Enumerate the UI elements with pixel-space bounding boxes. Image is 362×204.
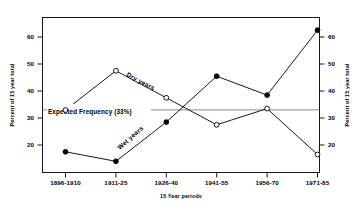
y-tick-label-right-4: 20 (328, 141, 335, 148)
dry-years-point-1 (114, 68, 119, 73)
x-category-label-0: 1896-1910 (50, 179, 81, 186)
wet-years-point-3 (214, 74, 219, 79)
x-axis-title: 15 Year periods (160, 193, 202, 199)
y-tick-label-right-1: 50 (328, 60, 335, 67)
wet-years-label: Wet years (116, 124, 145, 151)
wet-years-point-4 (265, 93, 270, 98)
y-tick-label-left-0: 60 (27, 33, 34, 40)
right-axis-ticks (320, 37, 325, 145)
dry-years-point-5 (315, 152, 320, 157)
x-category-label-2: 1926-40 (155, 179, 179, 186)
y-tick-label-left-4: 20 (27, 141, 34, 148)
dry-years-point-2 (164, 95, 169, 100)
x-category-label-1: 1911-25 (104, 179, 128, 186)
x-category-label-3: 1941-55 (205, 179, 229, 186)
wet-years-point-1 (114, 159, 119, 164)
y-tick-label-right-3: 30 (328, 114, 335, 121)
y-tick-label-left-2: 40 (27, 87, 34, 94)
wet-years-markers (63, 28, 320, 164)
chart-canvas: 60 50 40 30 20 60 50 40 30 20 1896-1910 … (0, 0, 362, 204)
wet-years-point-5 (315, 28, 320, 33)
left-axis-ticks (38, 37, 43, 145)
dry-years-label: Dry years (125, 71, 156, 93)
chart-figure: 60 50 40 30 20 60 50 40 30 20 1896-1910 … (0, 0, 362, 204)
wet-years-point-0 (63, 149, 68, 154)
y-tick-label-left-1: 50 (27, 60, 34, 67)
plot-frame (43, 18, 320, 173)
x-category-label-4: 1956-70 (255, 179, 279, 186)
y-tick-label-right-2: 40 (328, 87, 335, 94)
y-axis-title-left: Percent of 15 year total (9, 63, 15, 126)
wet-years-point-2 (164, 120, 169, 125)
y-axis-title-right: Percent of 15 year total (344, 63, 350, 126)
x-axis-ticks (66, 173, 318, 178)
dry-years-point-4 (265, 106, 270, 111)
x-category-label-5: 1971-85 (306, 179, 330, 186)
wet-years-line (66, 30, 318, 161)
y-tick-label-right-0: 60 (328, 33, 335, 40)
dry-years-point-0 (63, 108, 68, 113)
y-tick-label-left-3: 30 (27, 114, 34, 121)
dry-years-point-3 (214, 122, 219, 127)
expected-frequency-label: Expected Frequency (33%) (48, 108, 132, 116)
